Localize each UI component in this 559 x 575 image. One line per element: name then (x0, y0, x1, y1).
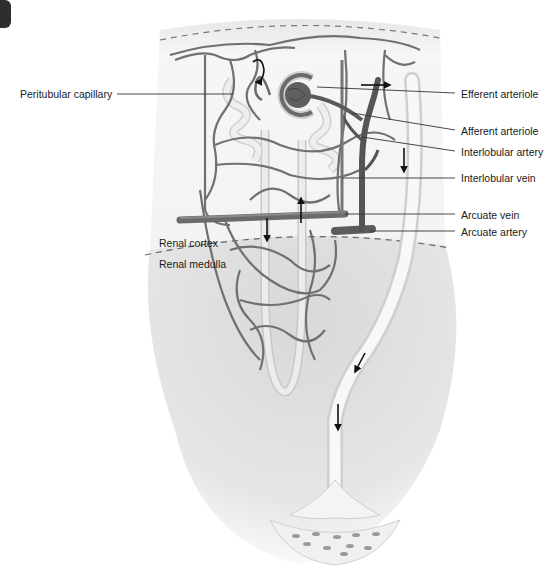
label-interlobular-vein: Interlobular vein (461, 172, 536, 184)
label-efferent-arteriole: Efferent arteriole (461, 88, 538, 100)
arcuate-artery-vessel (335, 229, 372, 231)
nephron-blood-supply-diagram: Peritubular capillary Efferent arteriole… (0, 0, 559, 575)
label-arcuate-artery: Arcuate artery (461, 226, 527, 238)
label-peritubular-capillary: Peritubular capillary (20, 88, 112, 100)
label-renal-medulla: Renal medulla (159, 258, 226, 270)
label-renal-cortex: Renal cortex (159, 237, 218, 249)
label-interlobular-artery: Interlobular artery (461, 146, 543, 158)
label-afferent-arteriole: Afferent arteriole (461, 125, 538, 137)
label-arcuate-vein: Arcuate vein (461, 209, 519, 221)
diagram-artwork (0, 0, 559, 575)
